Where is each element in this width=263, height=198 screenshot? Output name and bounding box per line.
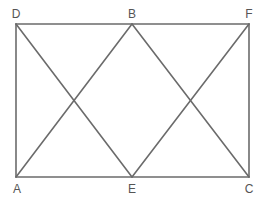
point-label-d: D	[12, 7, 21, 21]
labels-group: D B F A E C	[12, 7, 254, 196]
point-label-e: E	[128, 182, 136, 196]
point-label-c: C	[245, 182, 254, 196]
segments-group	[16, 24, 249, 177]
geometry-diagram: D B F A E C	[0, 0, 263, 198]
point-label-f: F	[245, 7, 252, 21]
point-label-b: B	[128, 7, 136, 21]
point-label-a: A	[13, 182, 21, 196]
